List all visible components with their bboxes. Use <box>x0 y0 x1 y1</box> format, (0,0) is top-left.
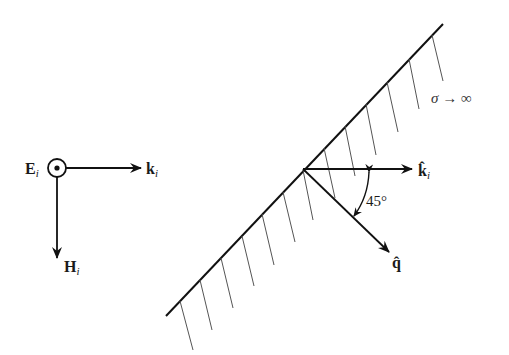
k-hat-label: k̂i <box>418 161 430 181</box>
k-incident-label: ki <box>146 160 158 179</box>
wall-hatching <box>180 35 443 350</box>
conductor-wall: σ → ∞ <box>166 24 472 350</box>
reflection-geometry: k̂i q̂ 45° <box>303 161 430 272</box>
q-hat-label: q̂ <box>392 254 401 272</box>
q-hat-arrow <box>303 169 389 252</box>
e-field-dot-icon <box>54 165 59 170</box>
conductivity-label: σ → ∞ <box>431 90 472 106</box>
h-field-label: Hi <box>64 258 80 277</box>
e-field-label: Ei <box>25 160 39 179</box>
incident-field-triad: Ei ki Hi <box>25 159 158 277</box>
diagram-canvas: Ei ki Hi σ → ∞ k̂i q̂ 45° <box>0 0 509 355</box>
angle-label: 45° <box>366 193 387 209</box>
